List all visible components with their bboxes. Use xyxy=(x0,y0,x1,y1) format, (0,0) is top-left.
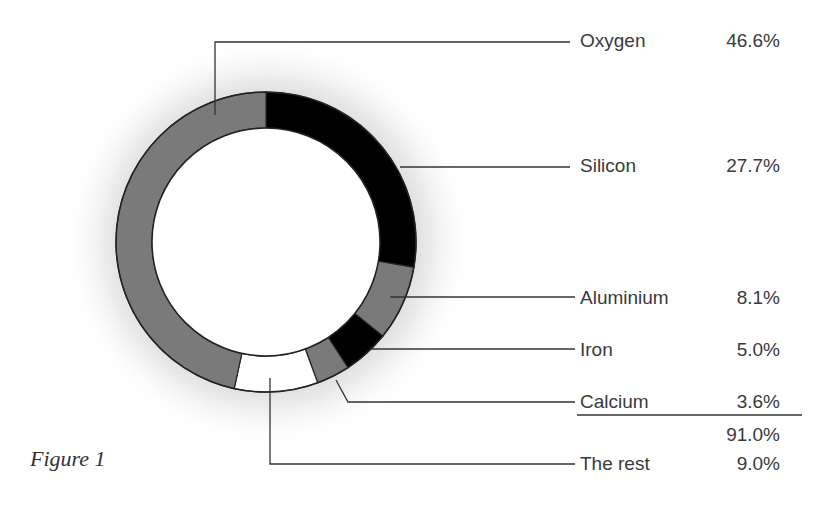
legend-value-calcium: 3.6% xyxy=(700,392,780,411)
subtotal-value: 91.0% xyxy=(700,425,780,444)
figure-caption: Figure 1 xyxy=(30,446,106,472)
legend-label-oxygen: Oxygen xyxy=(580,31,645,50)
legend-value-oxygen: 46.6% xyxy=(700,31,780,50)
legend-label-the-rest: The rest xyxy=(580,454,650,473)
legend-label-aluminium: Aluminium xyxy=(580,288,669,307)
donut-hole xyxy=(152,128,380,356)
legend-label-iron: Iron xyxy=(580,340,613,359)
legend-label-calcium: Calcium xyxy=(580,392,649,411)
legend-value-silicon: 27.7% xyxy=(700,156,780,175)
legend-label-silicon: Silicon xyxy=(580,156,636,175)
legend-value-aluminium: 8.1% xyxy=(700,288,780,307)
legend-value-iron: 5.0% xyxy=(700,340,780,359)
legend-value-the-rest: 9.0% xyxy=(700,454,780,473)
